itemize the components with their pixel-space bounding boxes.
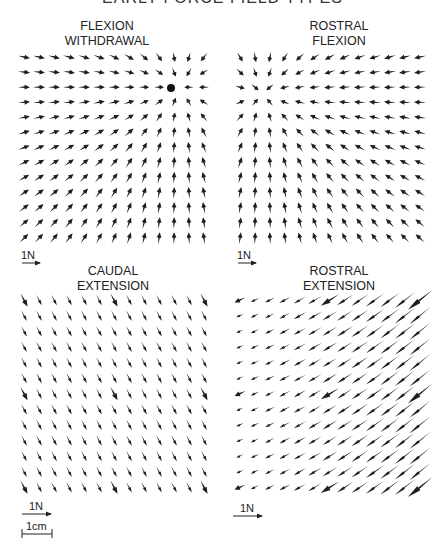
force-vector [399,145,410,150]
force-vector [294,374,307,381]
force-vector [96,203,103,213]
force-vector [265,344,275,349]
force-vector [251,84,258,90]
force-vector [251,360,260,364]
force-vector [96,218,102,228]
force-vector [395,370,415,386]
force-vector [141,451,147,462]
force-vector [294,468,307,475]
force-vector [308,483,322,491]
force-vector [337,357,353,368]
force-vector [283,187,288,199]
force-vector [339,85,351,90]
force-vector [323,436,338,445]
force-vector [327,218,333,229]
force-vector [81,435,87,446]
force-vector [202,172,207,184]
force-vector [340,159,349,167]
force-vector [351,450,368,462]
force-vector [342,233,348,243]
force-vector [323,311,338,320]
force-vector [111,451,117,462]
force-vector [126,342,132,353]
force-vector [171,357,177,368]
force-vector [156,466,162,477]
force-vector [357,233,364,243]
force-vector [384,115,396,120]
force-vector [400,189,410,196]
force-vector [154,85,164,90]
force-vector [187,142,192,153]
force-vector [414,145,425,150]
force-vector [171,342,177,353]
force-vector [337,451,353,462]
force-vector [351,372,368,384]
force-vector [51,466,57,477]
force-vector [186,357,192,368]
force-vector [384,145,395,150]
force-vector [78,100,90,105]
force-vector [51,373,57,384]
force-vector [126,326,132,337]
force-vector [63,85,75,90]
force-vector [395,308,415,324]
force-vector [337,373,353,384]
force-vector [141,342,147,353]
force-vector [81,342,87,353]
force-vector [354,115,366,120]
force-vector [141,310,147,321]
force-vector [237,128,242,137]
force-vector [351,341,368,353]
force-vector [265,313,275,318]
force-vector [337,404,353,415]
force-vector [141,157,146,168]
force-vector [355,145,365,151]
force-vector [238,202,243,214]
force-vector [186,482,192,493]
force-vector [395,401,415,417]
rostral-flexion-field [235,52,426,244]
force-vector [351,403,368,415]
force-vector [312,188,318,199]
force-vector [33,100,45,105]
force-vector [366,481,384,494]
force-vector [370,160,380,166]
force-vector [253,172,258,184]
force-vector [109,55,120,60]
force-vector [380,480,399,494]
force-vector [251,407,260,411]
force-vector [251,376,260,380]
force-vector [298,217,303,229]
force-vector [66,451,72,462]
force-vector [201,420,207,431]
force-vector [186,435,192,446]
force-vector [415,204,425,211]
force-vector [96,404,102,415]
force-vector [156,310,162,321]
force-vector [268,127,273,137]
force-vector [296,53,304,61]
force-vector [251,345,260,349]
force-vector [265,391,275,396]
force-vector [108,70,119,75]
force-vector [366,371,384,384]
force-vector [36,357,42,368]
force-vector [308,312,322,320]
force-vector [253,142,258,153]
force-vector [139,85,149,90]
force-vector [298,202,303,213]
force-vector [200,69,209,74]
force-vector [34,189,44,196]
force-vector [50,234,58,243]
force-vector [66,420,72,431]
force-vector [323,405,338,414]
force-vector [110,481,117,494]
force-vector [310,54,320,61]
force-vector [201,435,207,446]
force-vector [110,144,119,152]
force-vector [294,437,307,444]
force-vector [21,357,27,368]
force-vector [63,70,75,75]
force-vector [281,114,288,122]
force-vector [79,159,88,166]
